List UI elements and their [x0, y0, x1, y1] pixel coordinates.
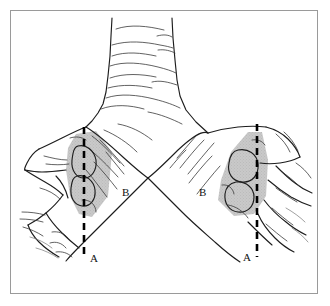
figure-root: A A B B: [0, 0, 330, 306]
trachea: [86, 18, 208, 133]
anatomical-diagram: A A B B: [0, 0, 330, 306]
label-a-right: A: [243, 251, 251, 263]
label-b-left: B: [122, 186, 129, 198]
label-a-left: A: [90, 252, 98, 264]
shaded-region-right: [218, 132, 268, 216]
label-b-right: B: [199, 186, 206, 198]
